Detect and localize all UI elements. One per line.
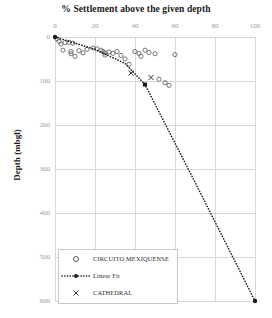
scatter-point-circuito-mexiquense — [123, 57, 127, 61]
scatter-point-circuito-mexiquense — [73, 54, 77, 58]
scatter-point-circuito-mexiquense — [157, 77, 161, 81]
scatter-point-circuito-mexiquense — [147, 50, 151, 54]
legend-item-label: CATHEDRAL — [93, 289, 132, 296]
scatter-point-circuito-mexiquense — [137, 51, 141, 55]
trendline-endpoint-marker — [53, 35, 57, 39]
scatter-point-circuito-mexiquense — [107, 50, 111, 54]
scatter-point-circuito-mexiquense — [77, 49, 81, 53]
scatter-point-circuito-mexiquense — [119, 53, 123, 57]
chart-container: % Settlement above the given depth 02040… — [0, 0, 272, 318]
dotted-line-glyph — [61, 272, 91, 280]
legend-item-label: CIRCUITO MEXIQUENSE — [93, 255, 169, 262]
scatter-point-circuito-mexiquense — [111, 51, 115, 55]
trendline-midpoint-marker — [143, 83, 147, 87]
scatter-point-circuito-mexiquense — [173, 53, 177, 57]
dotted-line-icon — [59, 272, 93, 280]
trendline-endpoint-marker — [253, 299, 257, 303]
scatter-point-circuito-mexiquense — [61, 48, 65, 52]
x-marker-icon — [59, 288, 93, 298]
scatter-point-circuito-mexiquense — [163, 81, 167, 85]
scatter-point-circuito-mexiquense — [81, 51, 85, 55]
scatter-point-circuito-mexiquense — [167, 83, 171, 87]
scatter-point-circuito-mexiquense — [153, 52, 157, 56]
scatter-point-circuito-mexiquense — [139, 54, 143, 58]
scatter-point-circuito-mexiquense — [143, 48, 147, 52]
scatter-point-circuito-mexiquense — [133, 49, 137, 53]
legend-item[interactable]: CATHEDRAL — [59, 284, 177, 301]
legend-item[interactable]: CIRCUITO MEXIQUENSE — [59, 250, 177, 267]
legend-item-label: Linear Fit — [93, 272, 120, 279]
scatter-point-circuito-mexiquense — [63, 41, 67, 45]
scatter-point-circuito-mexiquense — [85, 47, 89, 51]
legend-item[interactable]: Linear Fit — [59, 267, 177, 284]
open-circle-icon — [59, 256, 93, 262]
chart-legend: CIRCUITO MEXIQUENSELinear FitCATHEDRAL — [58, 249, 178, 304]
scatter-point-circuito-mexiquense — [115, 49, 119, 53]
open-circle-glyph — [73, 256, 79, 262]
x-marker-glyph — [71, 288, 81, 298]
scatter-point-cathedral — [148, 75, 153, 80]
